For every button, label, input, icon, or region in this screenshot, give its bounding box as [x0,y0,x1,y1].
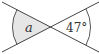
angle-a-label: a [25,20,33,35]
diagram-svg: a 47° [0,0,99,54]
vertical-angles-diagram: a 47° [0,0,99,54]
angle-47-label: 47° [66,21,87,35]
